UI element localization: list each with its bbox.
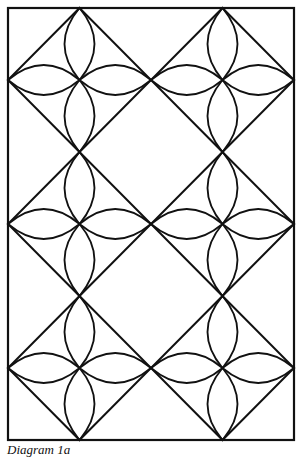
diamond-block: [151, 8, 294, 152]
diamond-block: [8, 8, 151, 152]
diamond-block: [8, 152, 151, 296]
diamond-block: [8, 296, 151, 440]
diamond-blocks: [8, 8, 294, 440]
figure-caption: Diagram 1a: [7, 443, 70, 456]
diamond-block: [151, 296, 294, 440]
diamond-block: [151, 152, 294, 296]
